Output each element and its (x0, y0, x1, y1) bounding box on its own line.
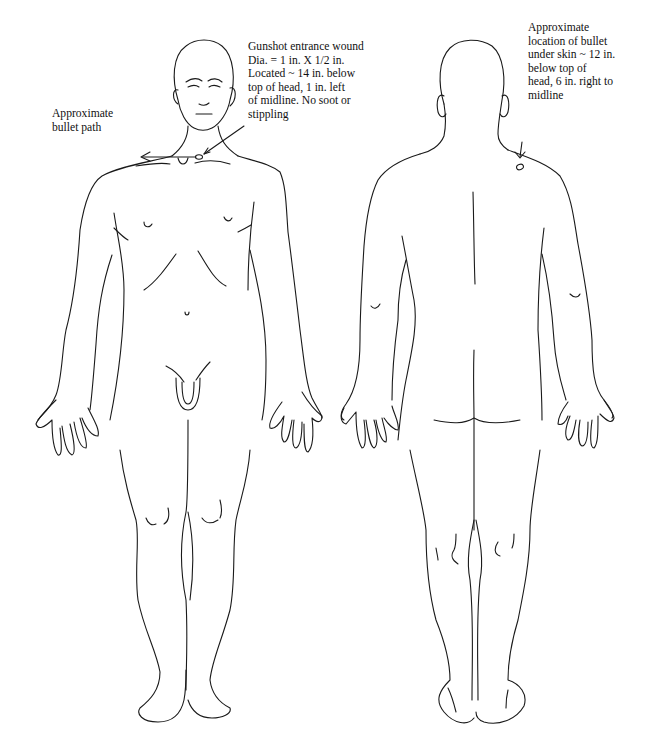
front-right-torso-side (250, 250, 266, 420)
back-right-heel (506, 690, 508, 708)
front-inner-legs (182, 420, 193, 690)
front-left-eye (188, 86, 199, 88)
back-buttocks-crease (434, 418, 520, 423)
back-bullet-location (516, 163, 524, 170)
front-right-inner-arm (248, 202, 254, 290)
front-entrance-wound (196, 155, 203, 159)
front-neck-left (172, 126, 188, 156)
back-left-torso-side (398, 236, 415, 440)
front-head-outline (174, 40, 233, 130)
front-torso-left (38, 156, 172, 420)
front-right-nipple (224, 217, 232, 221)
entrance-wound-pointer (204, 126, 244, 154)
back-left-hand (341, 406, 398, 448)
bullet-path-annotation: Approximate bullet path (52, 107, 142, 134)
front-left-ribline (144, 254, 176, 290)
front-left-nipple (144, 222, 152, 227)
back-torso-left (341, 154, 420, 420)
back-left-leg-outer (410, 450, 474, 723)
back-right-leg-outer (476, 450, 540, 723)
back-right-hand (558, 400, 614, 448)
posterior-body-figure (341, 40, 614, 723)
front-left-torso-side (90, 255, 112, 410)
front-suprasternal-notch (178, 158, 188, 164)
front-right-eye (209, 86, 220, 88)
back-left-elbow (371, 304, 380, 308)
front-right-ribline (198, 251, 226, 286)
front-left-knee (146, 508, 169, 525)
front-nose (199, 103, 209, 105)
back-left-inner-arm (392, 260, 406, 400)
bullet-location-annotation: Approximate location of bullet under ski… (528, 21, 648, 103)
front-right-leg-outer (188, 450, 250, 718)
back-spine (473, 192, 475, 284)
front-left-hand (36, 400, 98, 455)
back-head-left-side (420, 104, 446, 154)
front-right-clavicle (195, 161, 230, 164)
front-right-armpit (238, 225, 251, 232)
front-left-armpit (114, 228, 128, 240)
front-neck-right (218, 126, 238, 156)
back-head-outline (440, 40, 508, 150)
back-right-inner-arm (542, 254, 566, 400)
front-right-knee (202, 500, 222, 523)
front-torso-right (238, 156, 322, 418)
back-right-knee-crease (495, 534, 514, 556)
front-left-leg-outer (120, 450, 186, 722)
front-left-inner-arm (110, 213, 124, 420)
back-left-heel (448, 688, 456, 712)
back-left-knee-crease (436, 534, 458, 564)
front-navel (185, 312, 189, 315)
front-left-brow (186, 79, 202, 82)
front-right-groin (196, 362, 210, 380)
back-inner-legs (468, 520, 481, 700)
anterior-body-figure (36, 40, 322, 722)
front-genitals (176, 378, 200, 410)
entrance-wound-annotation: Gunshot entrance wound Dia. = 1 in. X 1/… (248, 40, 388, 122)
front-left-groin (166, 366, 184, 382)
back-right-elbow (570, 294, 580, 297)
front-right-brow (208, 79, 222, 82)
